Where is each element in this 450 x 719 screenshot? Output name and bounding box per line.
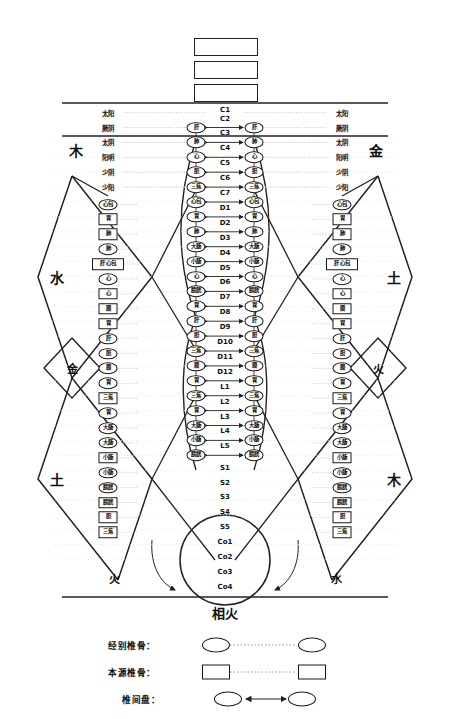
outer-node-right-12: 胃 (333, 378, 352, 390)
vertebra-label-l5: L5 (220, 442, 229, 450)
meridian-label-right-2: 太阴 (336, 138, 348, 147)
spine-node-d4-right: 小肠 (245, 256, 264, 268)
spine-node-d10-left: 三焦 (187, 345, 206, 357)
outer-node-right-8: 胃 (333, 318, 352, 330)
vertebra-label-d4: D4 (220, 249, 231, 257)
vertebra-label-d2: D2 (220, 219, 231, 227)
spine-node-d2-right: 肺 (245, 226, 264, 238)
vertebra-label-co1: Co1 (218, 538, 233, 546)
element-label-right-mid: 土 (387, 267, 401, 287)
outer-node-left-16: 大肠 (99, 437, 118, 449)
spine-node-c2-left: 肝 (187, 122, 206, 134)
outer-node-right-5: 心 (333, 273, 352, 285)
spine-node-d9-left: 胆 (187, 330, 206, 342)
outer-node-right-16: 大肠 (333, 437, 352, 449)
spine-node-d5-right: 心 (245, 271, 264, 283)
outer-node-right-13: 三焦 (333, 392, 352, 404)
vertebra-label-d3: D3 (220, 234, 231, 242)
outer-node-left-8: 胃 (99, 318, 118, 330)
meridian-label-left-1: 厥阴 (102, 123, 114, 132)
bottom-center-label: 相火 (212, 603, 238, 622)
element-label-right-inner: 火 (373, 360, 384, 376)
outer-node-left-5: 心 (99, 273, 118, 285)
legend-row: 椎间盘： (0, 686, 450, 713)
legend-row: 经别椎骨： (0, 632, 450, 659)
outer-node-left-6: 心 (99, 288, 118, 300)
spine-node-l4-right: 小肠 (245, 435, 264, 447)
outer-node-right-6: 心 (333, 288, 352, 300)
outer-node-right-2: 肺 (333, 229, 352, 241)
element-label-right-top: 金 (369, 140, 383, 160)
vertebra-label-l4: L4 (220, 427, 229, 435)
element-label-left-bottom-inner: 火 (109, 570, 120, 586)
meridian-label-right-5: 少阳 (336, 183, 348, 192)
outer-node-right-10: 胆 (333, 348, 352, 360)
spine-node-c4-right: 心 (245, 152, 264, 164)
spine-node-d11-right: 膜 (245, 360, 264, 372)
spine-node-d11-left: 膜 (187, 360, 206, 372)
spine-node-c7-left: 心包 (187, 196, 206, 208)
vertebra-label-l2: L2 (220, 398, 229, 406)
outer-node-right-17: 小肠 (333, 452, 352, 464)
diagram-canvas: 肝肝肺肺心心胆胆三焦三焦心包心包胃胃肺肺大肠大肠小肠小肠心心膀胱膀胱胃胃肝肝胆胆… (0, 0, 450, 719)
outer-node-right-19: 膀胱 (333, 482, 352, 494)
outer-node-left-11: 膜 (99, 363, 118, 375)
vertebra-label-d11: D11 (217, 353, 233, 361)
spine-node-c3-left: 肺 (187, 137, 206, 149)
element-label-right-bottom-inner: 水 (331, 570, 342, 586)
outer-node-left-7: 膜 (99, 303, 118, 315)
outer-node-right-9: 肝 (333, 333, 352, 345)
meridian-label-right-1: 厥阴 (336, 123, 348, 132)
spine-node-d4-left: 小肠 (187, 256, 206, 268)
element-label-left-mid: 水 (50, 267, 64, 287)
vertebra-label-s3: S3 (220, 493, 230, 501)
outer-node-left-4: 肝 心包 (92, 258, 124, 270)
spine-node-d1-right: 胃 (245, 211, 264, 223)
outer-node-right-18: 小肠 (333, 467, 352, 479)
meridian-label-left-0: 太阳 (102, 108, 114, 117)
vertebra-label-l1: L1 (220, 383, 229, 391)
legend-connector-dotted (0, 632, 450, 659)
spine-node-d7-right: 胃 (245, 301, 264, 313)
spine-node-c7-right: 心包 (245, 196, 264, 208)
meridian-label-left-4: 少阴 (102, 168, 114, 177)
outer-node-left-0: 心包 (99, 199, 118, 211)
spine-node-c2-right: 肝 (245, 122, 264, 134)
spine-node-d3-left: 大肠 (187, 241, 206, 253)
outer-node-left-18: 小肠 (99, 467, 118, 479)
element-label-left-bottom: 土 (50, 469, 64, 489)
spine-node-l2-right: 胃 (245, 405, 264, 417)
outer-node-right-20: 膀胱 (333, 497, 352, 509)
vertebra-label-d6: D6 (220, 278, 231, 286)
outer-node-left-13: 三焦 (99, 392, 118, 404)
vertebra-label-l3: L3 (220, 413, 229, 421)
spine-node-d9-right: 胆 (245, 330, 264, 342)
outer-node-left-1: 胃 (99, 214, 118, 226)
spine-node-l3-left: 大肠 (187, 420, 206, 432)
vertebra-label-c3: C3 (220, 129, 230, 137)
vertebra-label-d5: D5 (220, 264, 231, 272)
outer-node-left-10: 胆 (99, 348, 118, 360)
vertebra-label-c5: C5 (220, 159, 230, 167)
outer-node-right-1: 胃 (333, 214, 352, 226)
spine-node-d8-left: 肝 (187, 315, 206, 327)
outer-node-right-11: 膜 (333, 363, 352, 375)
spine-node-d6-right: 膀胱 (245, 286, 264, 298)
legend-connector-arrow (0, 686, 450, 713)
vertebra-label-c2: C2 (220, 115, 230, 123)
outer-node-left-22: 三焦 (99, 527, 118, 539)
outer-node-right-15: 大肠 (333, 422, 352, 434)
spine-node-l5-left: 膀胱 (187, 450, 206, 462)
spine-node-d3-right: 大肠 (245, 241, 264, 253)
outer-node-right-21: 胆 (333, 512, 352, 524)
outer-node-right-0: 心包 (333, 199, 352, 211)
legend-row: 本源椎骨： (0, 659, 450, 686)
meridian-label-left-3: 阳明 (102, 153, 114, 162)
outer-node-right-3: 肺 (333, 243, 352, 255)
meridian-label-left-5: 少阳 (102, 183, 114, 192)
spine-node-d8-right: 肝 (245, 315, 264, 327)
outer-node-left-17: 小肠 (99, 452, 118, 464)
vertebra-label-s1: S1 (220, 464, 230, 472)
element-label-right-bottom: 木 (387, 469, 401, 489)
outer-node-right-14: 胃 (333, 407, 352, 419)
